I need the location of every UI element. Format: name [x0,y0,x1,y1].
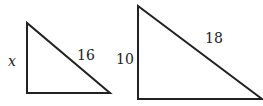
large-triangle-hypotenuse-label: 18 [205,30,223,46]
small-triangle [27,23,110,93]
large-triangle [138,6,262,99]
similar-triangles-diagram: x 16 10 18 [0,0,263,106]
small-triangle-leg-label: x [8,53,16,69]
large-triangle-leg-label: 10 [116,51,134,67]
small-triangle-hypotenuse-label: 16 [77,47,95,63]
